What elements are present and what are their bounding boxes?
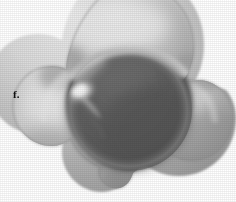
panel-label: f.	[13, 89, 19, 100]
figure-panel: f.	[0, 0, 236, 202]
rendered-3d-surface	[0, 0, 236, 202]
